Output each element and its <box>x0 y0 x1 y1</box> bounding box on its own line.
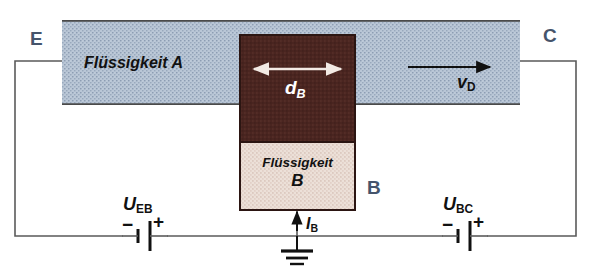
schematic-svg <box>0 0 594 279</box>
u-eb-plus-sign: + <box>153 212 164 231</box>
u-eb-minus-sign: − <box>122 215 133 234</box>
u-bc-minus-sign: − <box>442 215 453 234</box>
ground-icon <box>281 236 313 264</box>
liquid-b-region <box>240 142 355 210</box>
figure-canvas: E C B Flüssigkeit A Flüssigkeit B dB vD … <box>0 0 594 279</box>
base-block-region <box>240 35 355 142</box>
u-bc-plus-sign: + <box>473 212 484 231</box>
